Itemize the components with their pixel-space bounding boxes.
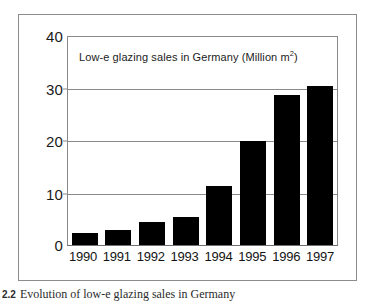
- figure-caption: 2.2Evolution of low-e glazing sales in G…: [2, 287, 372, 301]
- x-tick-label-1993: 1993: [168, 249, 202, 264]
- bar-1995: [240, 141, 266, 246]
- figure: 40 30 20 10 0: [0, 0, 372, 301]
- bar-slot: [203, 36, 237, 245]
- bar-1990: [72, 233, 98, 245]
- y-tick-label-10: 10: [46, 185, 63, 202]
- bar-slot: [135, 36, 169, 245]
- x-tick-label-1995: 1995: [235, 249, 269, 264]
- plot-area: 40 30 20 10 0: [67, 36, 338, 246]
- y-tick-dash-20: [63, 141, 67, 142]
- bar-1994: [206, 186, 232, 245]
- figure-caption-text: Evolution of low-e glazing sales in Germ…: [20, 287, 235, 301]
- y-tick-label-40: 40: [46, 28, 63, 45]
- x-tick-label-1991: 1991: [100, 249, 134, 264]
- y-tick-dash-10: [63, 193, 67, 194]
- y-tick-label-20: 20: [46, 133, 63, 150]
- bar-slot: [169, 36, 203, 245]
- bar-1992: [139, 222, 165, 245]
- chart-title-text: Low-e glazing sales in Germany (Million …: [79, 51, 290, 63]
- chart-title: Low-e glazing sales in Germany (Million …: [79, 51, 298, 63]
- x-tick-label-1992: 1992: [134, 249, 168, 264]
- x-tick-label-1996: 1996: [269, 249, 303, 264]
- x-tick-label-1990: 1990: [66, 249, 100, 264]
- chart-title-suffix: ): [294, 51, 298, 63]
- bar-1997: [307, 86, 333, 245]
- bar-slot: [303, 36, 337, 245]
- bar-slot: [68, 36, 102, 245]
- bar-slot: [236, 36, 270, 245]
- x-axis-baseline: 0: [67, 245, 338, 246]
- y-tick-label-0: 0: [54, 237, 63, 254]
- y-tick-label-30: 30: [46, 80, 63, 97]
- bar-1993: [173, 217, 199, 245]
- bar-1996: [274, 95, 300, 245]
- x-tick-label-1997: 1997: [303, 249, 337, 264]
- figure-caption-number: 2.2: [2, 289, 16, 300]
- bar-slot: [102, 36, 136, 245]
- bar-slot: [270, 36, 304, 245]
- x-tick-label-1994: 1994: [202, 249, 236, 264]
- chart-frame: 40 30 20 10 0: [18, 14, 357, 281]
- x-axis-labels: 1990 1991 1992 1993 1994 1995 1996 1997: [66, 249, 337, 264]
- y-tick-dash-30: [63, 88, 67, 89]
- bar-1991: [105, 230, 131, 245]
- bar-series: [68, 36, 337, 245]
